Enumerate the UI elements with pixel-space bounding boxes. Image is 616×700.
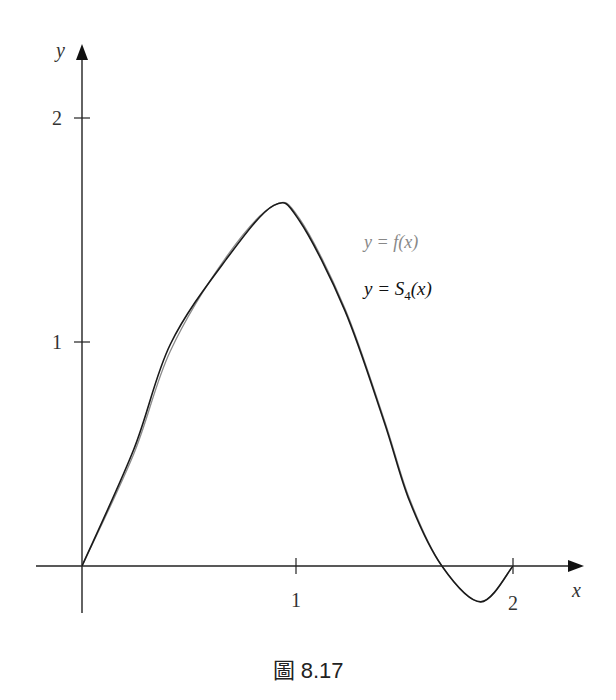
s4-curve — [82, 203, 513, 602]
y-tick-label-2: 2 — [52, 107, 62, 129]
chart-plot: 1 2 1 2 x y y = f(x) y = S4(x) — [0, 0, 616, 700]
x-axis-label: x — [571, 579, 581, 601]
axes: 1 2 1 2 x y — [36, 39, 584, 614]
legend-s4-arg: (x) — [411, 278, 432, 300]
x-tick-label-2: 2 — [508, 592, 518, 614]
legend-s4-prefix: y = — [362, 278, 395, 299]
x-axis-arrow-icon — [568, 560, 584, 572]
y-axis-arrow-icon — [76, 44, 88, 60]
legend-f-func: f(x) — [393, 232, 418, 253]
f-curve — [82, 202, 513, 602]
figure-caption: 圖 8.17 — [0, 652, 616, 684]
y-axis-label: y — [54, 39, 65, 62]
legend-f-prefix: y = — [362, 232, 393, 252]
legend-f-label: y = f(x) — [362, 232, 418, 253]
legend-s4-label: y = S4(x) — [362, 278, 432, 303]
legend-s4-S: S — [395, 278, 405, 299]
y-tick-label-1: 1 — [52, 331, 62, 353]
x-tick-label-1: 1 — [291, 589, 301, 611]
